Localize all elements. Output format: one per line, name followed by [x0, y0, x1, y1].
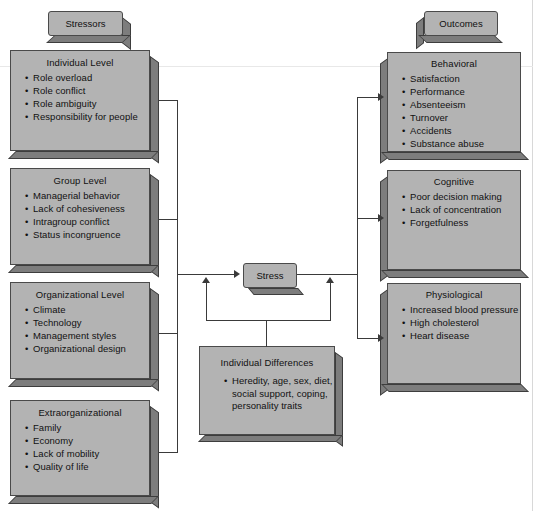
connector-moderator-rail — [206, 320, 331, 321]
stress-model-diagram: Stressors Outcomes Individual Level Role… — [0, 0, 533, 511]
outcomes-header-shadow-left — [416, 17, 424, 49]
group-level-shadow-bottom — [8, 265, 159, 273]
connector-bus-to-stress — [177, 274, 235, 275]
group-level-shadow-right — [150, 174, 159, 278]
list-item: Absenteeism — [402, 99, 520, 112]
connector-stress-to-right-bus — [297, 274, 358, 275]
list-item: Role conflict — [25, 85, 149, 98]
outcomes-header-shadow-bottom — [418, 35, 503, 43]
individual-differences-shadow-bottom — [198, 435, 343, 442]
list-item: Satisfaction — [402, 73, 520, 86]
box-physiological: Physiological Increased blood pressure H… — [387, 283, 521, 384]
box-behavioral: Behavioral Satisfaction Performance Abse… — [387, 52, 521, 152]
individual-differences-shadow-right — [335, 352, 343, 447]
list-item: Turnover — [402, 112, 520, 125]
stress-shadow-bottom — [248, 288, 304, 295]
cognitive-shadow-bottom — [381, 270, 529, 278]
list-item: Climate — [25, 304, 149, 317]
connector-extraorganizational-stub — [159, 452, 178, 453]
stressors-header-shadow-right — [122, 17, 131, 50]
box-stress: Stress — [243, 263, 297, 288]
list-item: Performance — [402, 86, 520, 99]
connector-left-vertical-bus — [177, 100, 178, 453]
header-outcomes-label: Outcomes — [439, 18, 482, 29]
box-individual-differences-list: Heredity, age, sex, diet, social support… — [200, 375, 334, 413]
connector-group-level-stub — [159, 219, 178, 220]
list-item: Poor decision making — [402, 191, 520, 204]
box-extraorganizational-title: Extraorganizational — [11, 407, 149, 419]
header-stressors-label: Stressors — [65, 18, 105, 29]
stressors-header-shadow-bottom — [46, 35, 131, 43]
behavioral-shadow-bottom — [381, 152, 529, 160]
organizational-level-shadow-right — [150, 288, 159, 392]
connector-to-behavioral — [357, 97, 380, 98]
list-item: Responsibility for people — [25, 111, 149, 124]
list-item: Heredity, age, sex, diet, social support… — [224, 375, 334, 413]
extraorganizational-shadow-right — [150, 406, 159, 509]
individual-level-shadow-right — [150, 56, 159, 164]
box-group-level-list: Managerial behavior Lack of cohesiveness… — [11, 190, 149, 242]
box-behavioral-title: Behavioral — [388, 58, 520, 70]
individual-level-shadow-bottom — [8, 151, 159, 159]
list-item: Forgetfulness — [402, 217, 520, 230]
list-item: Lack of cohesiveness — [25, 203, 149, 216]
list-item: Family — [25, 422, 149, 435]
arrow-moderator-right — [326, 277, 334, 283]
list-item: Heart disease — [402, 330, 520, 343]
header-outcomes: Outcomes — [424, 11, 498, 36]
box-group-level-title: Group Level — [11, 175, 149, 187]
connector-organizational-level-stub — [159, 333, 178, 334]
list-item: Accidents — [402, 125, 520, 138]
box-organizational-level: Organizational Level Climate Technology … — [10, 282, 150, 379]
organizational-level-shadow-bottom — [8, 379, 159, 387]
box-individual-level-title: Individual Level — [11, 57, 149, 69]
box-cognitive-list: Poor decision making Lack of concentrati… — [388, 191, 520, 230]
header-stressors: Stressors — [48, 11, 123, 36]
list-item: Managerial behavior — [25, 190, 149, 203]
connector-individual-level-stub — [159, 100, 178, 101]
box-individual-level: Individual Level Role overload Role conf… — [10, 50, 150, 151]
list-item: Role ambiguity — [25, 98, 149, 111]
list-item: Lack of concentration — [402, 204, 520, 217]
arrow-into-physiological — [378, 334, 384, 342]
list-item: High cholesterol — [402, 317, 520, 330]
connector-moderator-left-riser — [206, 283, 207, 321]
box-individual-differences: Individual Differences Heredity, age, se… — [199, 346, 335, 435]
arrow-into-stress — [234, 270, 240, 278]
list-item: Increased blood pressure — [402, 304, 520, 317]
box-physiological-title: Physiological — [388, 289, 520, 301]
box-individual-differences-title: Individual Differences — [200, 357, 334, 369]
box-extraorganizational-list: Family Economy Lack of mobility Quality … — [11, 422, 149, 474]
list-item: Substance abuse — [402, 138, 520, 151]
list-item: Role overload — [25, 72, 149, 85]
connector-to-physiological — [357, 338, 380, 339]
arrow-into-cognitive — [378, 214, 384, 222]
box-cognitive-title: Cognitive — [388, 176, 520, 188]
connector-to-cognitive — [357, 218, 380, 219]
physiological-shadow-bottom — [381, 384, 529, 392]
extraorganizational-shadow-bottom — [8, 496, 159, 504]
list-item: Organizational design — [25, 343, 149, 356]
box-organizational-level-title: Organizational Level — [11, 289, 149, 301]
box-individual-level-list: Role overload Role conflict Role ambigui… — [11, 72, 149, 124]
box-extraorganizational: Extraorganizational Family Economy Lack … — [10, 400, 150, 496]
connector-moderator-right-riser — [330, 283, 331, 321]
arrow-moderator-left — [202, 277, 210, 283]
list-item: Lack of mobility — [25, 448, 149, 461]
box-group-level: Group Level Managerial behavior Lack of … — [10, 168, 150, 265]
connector-individual-differences-stem — [266, 320, 267, 347]
box-cognitive: Cognitive Poor decision making Lack of c… — [387, 170, 521, 270]
box-stress-label: Stress — [257, 270, 284, 281]
arrow-into-behavioral — [378, 93, 384, 101]
list-item: Management styles — [25, 330, 149, 343]
list-item: Economy — [25, 435, 149, 448]
list-item: Quality of life — [25, 461, 149, 474]
list-item: Technology — [25, 317, 149, 330]
box-organizational-level-list: Climate Technology Management styles Org… — [11, 304, 149, 356]
box-physiological-list: Increased blood pressure High cholestero… — [388, 304, 520, 343]
box-behavioral-list: Satisfaction Performance Absenteeism Tur… — [388, 73, 520, 151]
list-item: Status incongruence — [25, 229, 149, 242]
list-item: Intragroup conflict — [25, 216, 149, 229]
